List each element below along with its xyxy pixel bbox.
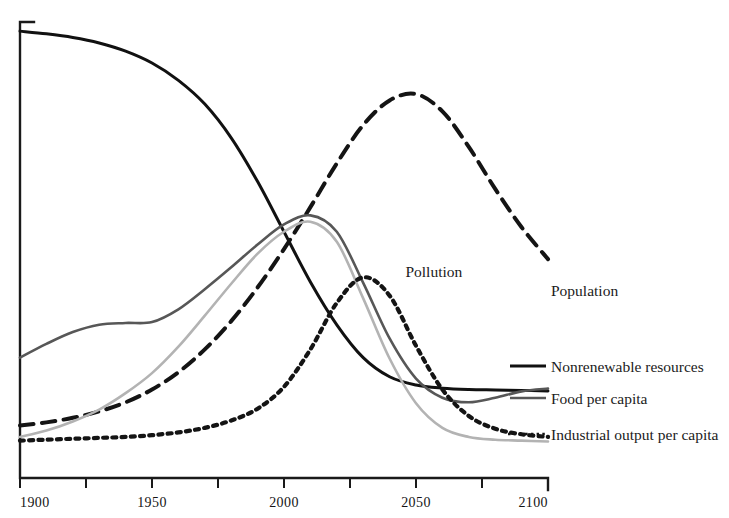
series-line-pollution	[20, 277, 548, 440]
x-tick-label-2100: 2100	[518, 495, 548, 510]
x-tick-label-2000: 2000	[269, 495, 299, 510]
series-line-food-per-capita	[20, 215, 548, 402]
chart-annotations: Pollution	[405, 263, 462, 280]
x-tick-label-1900: 1900	[20, 495, 50, 510]
series-line-population	[20, 94, 548, 426]
chart-legend: PopulationNonrenewable resourcesFood per…	[508, 282, 719, 443]
x-tick-label-2050: 2050	[401, 495, 431, 510]
chart-axes	[20, 22, 548, 490]
legend-label-nonrenewable-resources: Nonrenewable resources	[551, 358, 704, 375]
legend-label-population: Population	[551, 282, 618, 299]
series-line-industrial-output-per-capita	[20, 221, 548, 441]
legend-label-food-per-capita: Food per capita	[551, 390, 648, 407]
x-axis-tick-marks	[20, 478, 482, 488]
x-axis-tick-labels: 19001950200020502100	[20, 495, 548, 510]
legend-label-industrial-output-per-capita: Industrial output per capita	[551, 426, 719, 443]
x-tick-label-1950: 1950	[137, 495, 167, 510]
chart-container: 19001950200020502100 Pollution Populatio…	[0, 0, 729, 518]
series-line-nonrenewable-resources	[20, 31, 548, 391]
limits-to-growth-chart: 19001950200020502100 Pollution Populatio…	[0, 0, 729, 518]
axis-lines	[20, 22, 548, 490]
chart-series-group	[20, 31, 548, 441]
annotation-pollution: Pollution	[405, 263, 462, 280]
